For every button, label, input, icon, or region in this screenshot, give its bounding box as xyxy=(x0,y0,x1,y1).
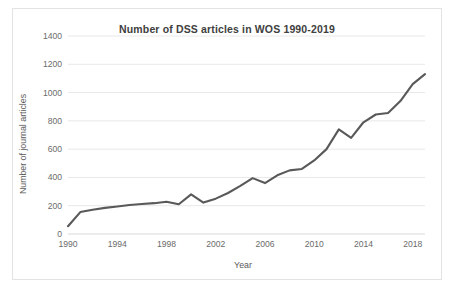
chart-card: Number of DSS articles in WOS 1990-2019 … xyxy=(12,8,442,280)
y-tick-label: 1400 xyxy=(43,31,62,41)
y-tick-label: 200 xyxy=(48,201,63,211)
y-tick-label: 800 xyxy=(48,116,63,126)
y-tick-label: 400 xyxy=(48,172,63,182)
x-axis-tick-labels: 19901994199820022006201020142018 xyxy=(58,239,422,249)
x-tick-label: 2006 xyxy=(255,239,274,249)
y-tick-label: 1000 xyxy=(43,88,62,98)
y-tick-label: 1200 xyxy=(43,59,62,69)
x-tick-label: 2002 xyxy=(206,239,225,249)
x-tick-label: 2018 xyxy=(403,239,422,249)
x-axis-title: Year xyxy=(234,260,252,270)
data-series-line xyxy=(68,74,425,226)
gridlines-group xyxy=(68,36,425,234)
x-tick-label: 2010 xyxy=(305,239,324,249)
x-tick-label: 1994 xyxy=(108,239,127,249)
y-tick-label: 0 xyxy=(57,229,62,239)
y-tick-label: 600 xyxy=(48,144,63,154)
y-axis-tick-labels: 0200400600800100012001400 xyxy=(43,31,62,239)
x-tick-label: 1998 xyxy=(157,239,176,249)
x-tick-label: 2014 xyxy=(354,239,373,249)
x-tick-label: 1990 xyxy=(58,239,77,249)
y-axis-title: Number of journal articles xyxy=(18,93,28,194)
line-chart-plot: 0200400600800100012001400 19901994199820… xyxy=(13,9,441,279)
